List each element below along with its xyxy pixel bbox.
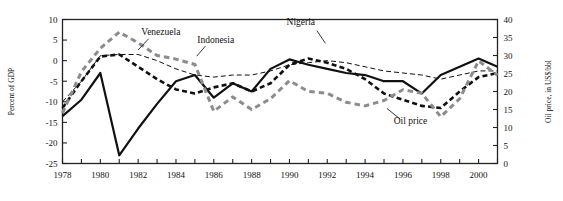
y-tick-label: -25 — [46, 159, 58, 169]
chart-svg: 1050-5-10-15-20-254035302520151050197819… — [0, 0, 563, 201]
y2-tick-label: 5 — [504, 141, 509, 151]
x-tick-label: 1984 — [167, 170, 186, 180]
annotation-leader-nigeria — [317, 31, 326, 44]
y2-tick-label: 10 — [504, 123, 514, 133]
y2-tick-label: 35 — [504, 33, 514, 43]
annotation-venezuela: Venezuela — [141, 27, 181, 37]
series-line-oil-price — [63, 32, 498, 117]
annotation-indonesia: Indonesia — [197, 35, 235, 45]
y-axis-title: Percent of GDP — [7, 68, 16, 116]
x-tick-label: 1982 — [129, 170, 147, 180]
y2-tick-label: 25 — [504, 69, 514, 79]
annotation-leader-indonesia — [197, 46, 206, 56]
y2-tick-label: 15 — [504, 105, 514, 115]
x-tick-label: 1996 — [394, 170, 413, 180]
y-tick-label: -5 — [50, 77, 58, 87]
y-tick-label: 5 — [53, 35, 58, 45]
x-tick-label: 1978 — [54, 170, 73, 180]
y-tick-label: 10 — [49, 15, 59, 25]
y2-tick-label: 0 — [504, 159, 509, 169]
y2-tick-label: 20 — [504, 87, 514, 97]
x-tick-label: 1992 — [318, 170, 336, 180]
y2-axis-title: Oil price, in US$/bbl — [544, 60, 553, 123]
x-tick-label: 1998 — [432, 170, 451, 180]
x-tick-label: 1986 — [205, 170, 224, 180]
y-tick-label: -10 — [46, 97, 58, 107]
x-tick-label: 1988 — [243, 170, 262, 180]
series-line-venezuela — [63, 54, 498, 107]
x-tick-label: 2000 — [470, 170, 489, 180]
y-tick-label: -15 — [46, 118, 58, 128]
annotation-nigeria: Nigeria — [287, 17, 316, 27]
y2-tick-label: 30 — [504, 51, 514, 61]
chart-figure: 1050-5-10-15-20-254035302520151050197819… — [0, 0, 563, 201]
x-tick-label: 1980 — [91, 170, 110, 180]
y2-tick-label: 40 — [504, 15, 514, 25]
y-tick-label: 0 — [53, 56, 58, 66]
x-tick-label: 1994 — [356, 170, 375, 180]
x-tick-label: 1990 — [280, 170, 299, 180]
y-tick-label: -20 — [46, 138, 58, 148]
